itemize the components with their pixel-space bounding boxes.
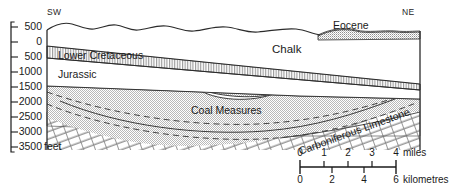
scale-unit-kilometres: kilometres: [403, 175, 449, 185]
scale-mile-tick-1: 1: [318, 148, 330, 158]
compass-label-ne: NE: [402, 8, 414, 17]
scale-bar: [300, 160, 396, 174]
scale-mile-tick-0: 0: [294, 148, 306, 158]
scale-mile-tick-2: 2: [342, 148, 354, 158]
stratum-label-eocene: Eocene: [333, 20, 369, 31]
scale-mile-tick-4: 4: [390, 148, 402, 158]
scale-bar-mile-ticks: [324, 161, 372, 167]
stratum-label-chalk: Chalk: [272, 44, 301, 56]
scale-km-tick-0: 0: [294, 175, 306, 185]
compass-label-sw: SW: [47, 8, 61, 17]
axis-tick-label-4: 1500: [0, 81, 42, 92]
axis-unit-label: feet: [44, 141, 62, 152]
axis-tick-label-2: 500: [0, 51, 42, 62]
axis-tick-label-1: 0: [0, 36, 42, 47]
scale-unit-miles: miles: [403, 148, 426, 158]
scale-mile-tick-3: 3: [366, 148, 378, 158]
scale-bar-km-ticks: [332, 167, 364, 173]
axis-tick-label-5: 2000: [0, 96, 42, 107]
axis-tick-label-0: 500: [0, 21, 42, 32]
axis-tick-label-6: 2500: [0, 111, 42, 122]
stratum-label-coal-measures: Coal Measures: [191, 105, 262, 116]
cross-section-drawing: [0, 0, 456, 190]
axis-tick-label-8: 3500: [0, 141, 42, 152]
scale-km-tick-3: 6: [390, 175, 402, 185]
axis-tick-label-7: 3000: [0, 126, 42, 137]
stratum-label-jurassic: Jurassic: [58, 69, 97, 80]
geological-cross-section-figure: SW NE 500 0 500 1000 1500 2000 2500 3000…: [0, 0, 456, 190]
scale-km-tick-1: 2: [326, 175, 338, 185]
scale-km-tick-2: 4: [358, 175, 370, 185]
axis-tick-label-3: 1000: [0, 66, 42, 77]
stratum-label-lower-cretaceous: Lower Cretaceous: [58, 50, 143, 61]
